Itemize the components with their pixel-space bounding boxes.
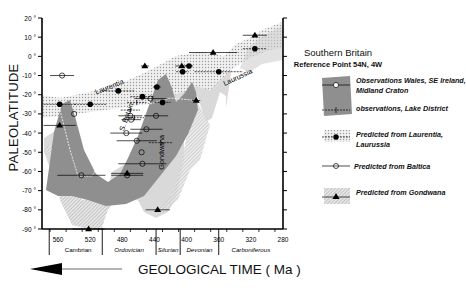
period-label-devonian: Devonian (186, 246, 213, 253)
y-tick-label: 20 ° (24, 15, 36, 22)
marker-triangle (141, 62, 148, 68)
marker-filled-circle (154, 84, 160, 90)
marker-triangle (210, 49, 217, 55)
y-tick-label: -20 ° (22, 91, 36, 98)
legend-item-wales-observations: Observations Wales, SE Ireland, Midland … (356, 76, 466, 95)
legend-subtitle: Reference Point 54N, 4W (273, 60, 403, 69)
marker-filled-circle (160, 100, 166, 106)
marker-filled-circle (116, 88, 122, 94)
y-tick-label: -10 ° (22, 72, 36, 79)
y-tick-label: 0 ° (28, 53, 36, 60)
y-tick-label: 10 ° (24, 34, 36, 41)
y-tick-label: -60 ° (22, 168, 36, 175)
marker-filled-circle (216, 69, 222, 75)
legend-item-lake-district: observations, Lake District (356, 104, 466, 114)
y-tick-label: -30 ° (22, 110, 36, 117)
y-tick-label: -80 ° (22, 206, 36, 213)
y-tick-label: -70 ° (22, 187, 36, 194)
legend-item-laurentia: Predicted from Laurentia, Laurussia (356, 130, 466, 149)
x-tick-label: 440 (149, 236, 160, 243)
x-tick-label: 520 (85, 236, 96, 243)
x-tick-label: 400 (181, 236, 192, 243)
annotation-gondwana: Gondwana (157, 135, 166, 170)
x-tick-label: 480 (117, 236, 128, 243)
y-tick-label: -40 ° (22, 130, 36, 137)
time-arrow-icon (30, 263, 122, 275)
legend-title: Southern Britain (278, 47, 398, 58)
y-tick-label: -50 ° (22, 149, 36, 156)
period-label-carboniferous: Carboniferous (231, 246, 270, 253)
legend-swatches (322, 76, 352, 204)
y-tick-label: -90 ° (22, 226, 36, 233)
marker-filled-circle (252, 46, 258, 52)
legend-item-baltica: Predicted from Baltica (354, 162, 464, 172)
period-label-ordovician: Ordovician (114, 246, 144, 253)
legend-item-gondwana: Predicted from Gondwana (356, 188, 466, 198)
y-axis-label: PALEOLATITUDE (6, 53, 21, 183)
x-axis-label: GEOLOGICAL TIME ( Ma ) (138, 262, 301, 277)
marker-filled-circle (180, 69, 186, 75)
marker-filled-circle (87, 102, 93, 108)
period-label-silurian: Silurian (158, 246, 179, 253)
marker-filled-circle (57, 102, 63, 108)
x-tick-label: 320 (245, 236, 256, 243)
x-tick-label: 560 (53, 236, 64, 243)
x-tick-label: 280 (278, 236, 289, 243)
marker-filled-circle (140, 94, 146, 100)
period-label-cambrian: Cambrian (65, 246, 92, 253)
